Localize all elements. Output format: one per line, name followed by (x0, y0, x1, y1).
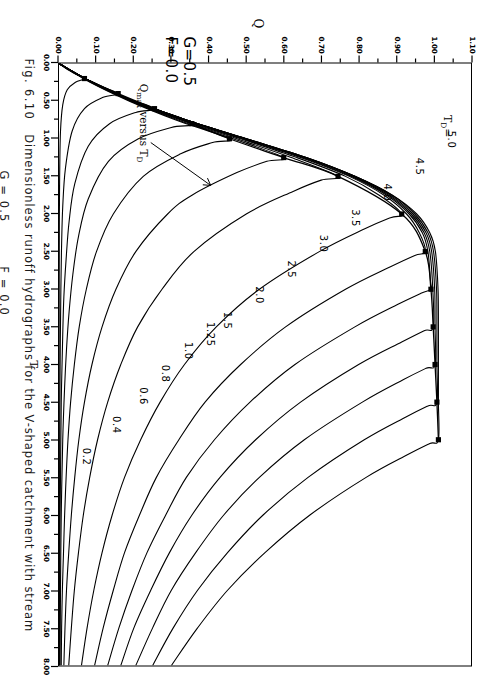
x-tick-label: 2.00 (42, 205, 51, 222)
y-axis-title: Q (251, 18, 265, 28)
hydrograph-curve (59, 63, 432, 665)
y-tick-label: 1.10 (468, 36, 477, 53)
x-tick-label: 4.00 (42, 356, 51, 373)
x-tick-label: 5.50 (42, 469, 51, 486)
figure-page: 0.000.501.001.502.002.503.003.504.004.50… (0, 0, 498, 697)
x-tick-label: 3.00 (42, 280, 51, 297)
caption-text: Dimensionless runoff hydrographs for the… (22, 134, 36, 632)
x-tick-label: 6.50 (42, 544, 51, 561)
curve-label-2-0: 2.0 (254, 286, 265, 304)
qmax-marker (423, 249, 428, 254)
x-tick-label: 6.00 (42, 507, 51, 524)
x-tick-label: 7.00 (42, 582, 51, 599)
plot-frame (58, 62, 472, 666)
curve-label-1-0: 1.0 (182, 342, 193, 360)
qmax-subscript: max (135, 92, 144, 108)
y-tick-label: 0.60 (279, 36, 288, 53)
td-subscript: D (438, 122, 447, 128)
curve-label-3-5: 3.5 (350, 209, 361, 227)
y-tick-label: 0.10 (91, 36, 100, 53)
qmax-marker (227, 136, 232, 141)
hydrograph-curve (59, 63, 402, 665)
caption-param-g: G = 0.5 (0, 170, 11, 222)
qmax-annotation-label: Qmax versus TD (135, 83, 150, 162)
qmax-marker (281, 154, 286, 159)
figure-number: Fig. 6.10 (22, 58, 36, 120)
x-tick-label: 1.50 (42, 167, 51, 184)
x-tick-label: 8.00 (42, 658, 51, 675)
td-equals: = (442, 128, 454, 137)
curve-label-1-25: 1.25 (205, 321, 216, 346)
hydrograph-curve (59, 63, 192, 665)
y-tick-label: 0.70 (317, 36, 326, 53)
hydrograph-curve (59, 63, 339, 665)
curve-label-2-5: 2.5 (286, 260, 297, 278)
x-tick-label: 1.00 (42, 129, 51, 146)
qmax-symbol: Q (138, 83, 150, 92)
td-series-prefix-label: TD= (438, 115, 453, 137)
qmax-marker (189, 121, 194, 126)
qmax-versus-text: versus T (138, 108, 150, 156)
td-symbol: T (442, 115, 454, 122)
curve-label-0-2: 0.2 (81, 447, 92, 465)
figure-caption: Fig. 6.10Dimensionless runoff hydrograph… (0, 58, 36, 697)
hydrograph-curve (59, 63, 434, 665)
plot-canvas (59, 63, 471, 665)
qmax-marker (82, 75, 87, 80)
g-value-inplot: G=0.5 (180, 36, 198, 86)
qmax-marker (152, 106, 157, 111)
y-tick-label: 0.20 (129, 36, 138, 53)
x-tick-label: 2.50 (42, 242, 51, 259)
qmax-marker (432, 361, 437, 366)
y-tick-label: 0.80 (355, 36, 364, 53)
curve-label-4-5: 4.5 (414, 157, 425, 175)
qmax-marker (428, 286, 433, 291)
curve-label-1-5: 1.5 (222, 311, 233, 329)
y-tick-label: 0.00 (54, 36, 63, 53)
y-tick-label: 0.90 (392, 36, 401, 53)
qmax-td-subscript: D (135, 156, 144, 162)
x-tick-label: 0.00 (42, 54, 51, 71)
y-tick-label: 0.40 (204, 36, 213, 53)
curve-label-0-8: 0.8 (160, 364, 171, 382)
caption-param-f: F = 0.0 (0, 266, 11, 316)
parameters-inplot-block: G=0.5 F=0.0 (161, 36, 198, 86)
f-value-inplot: F=0.0 (161, 36, 179, 86)
y-tick-label: 1.00 (430, 36, 439, 53)
qmax-marker (335, 173, 340, 178)
x-tick-label: 0.50 (42, 91, 51, 108)
qmax-marker (116, 91, 121, 96)
hydrograph-curve (59, 63, 285, 665)
caption-line: Fig. 6.10Dimensionless runoff hydrograph… (22, 58, 36, 697)
qmax-annotation-arrow (151, 142, 211, 185)
hydrograph-curve (59, 63, 436, 665)
x-tick-label: 3.50 (42, 318, 51, 335)
qmax-marker (434, 399, 439, 404)
curve-label-0-4: 0.4 (111, 416, 122, 434)
x-tick-label: 7.50 (42, 620, 51, 637)
qmax-marker (436, 437, 441, 442)
qmax-marker (399, 211, 404, 216)
x-tick-label: 4.50 (42, 393, 51, 410)
qmax-marker (431, 324, 436, 329)
x-tick-label: 5.00 (42, 431, 51, 448)
curve-label-4-0: 4.0 (382, 183, 393, 201)
rotated-figure-stage: 0.000.501.001.502.002.503.003.504.004.50… (0, 0, 498, 697)
curve-label-3-0: 3.0 (318, 234, 329, 252)
caption-parameters: G = 0.5F = 0.0 (0, 170, 11, 697)
y-tick-label: 0.50 (242, 36, 251, 53)
curve-label-0-6: 0.6 (137, 387, 148, 405)
